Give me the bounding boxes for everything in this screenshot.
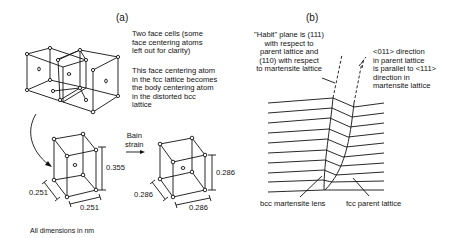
fcc-width-dim: 0.251 xyxy=(80,203,99,212)
habit-leader-line xyxy=(322,78,335,83)
curved-arrow xyxy=(31,114,49,165)
direction-dashed-line xyxy=(354,62,362,103)
bain-arrow-head xyxy=(140,150,145,154)
direction-arrow-line xyxy=(359,57,366,66)
bcc-depth-dim: 0.286 xyxy=(134,190,153,199)
direction-note: <011> direction in parent lattice is par… xyxy=(373,48,436,91)
martensite-lens-label: bcc martensite lens xyxy=(260,200,325,209)
fcc-parent-lattice-lines xyxy=(268,98,384,192)
curved-arrow-head xyxy=(45,161,52,167)
lens-leader-line xyxy=(300,176,322,197)
bcc-height-dim: 0.286 xyxy=(216,168,235,177)
two-face-cells-note: Two face cells (some face centering atom… xyxy=(132,30,203,56)
units-note: All dimensions in nm xyxy=(30,227,94,236)
habit-plane-dashed-line xyxy=(333,55,342,98)
fcc-depth-dim: 0.251 xyxy=(29,188,48,197)
parent-lattice-label: fcc parent lattice xyxy=(346,200,401,209)
bcc-unit-cell xyxy=(158,136,207,199)
parent-leader-line xyxy=(353,178,369,196)
fcc-height-dim: 0.355 xyxy=(106,163,125,172)
direction-arrow-line-2 xyxy=(362,58,364,68)
face-centering-note: This face centering atom in the fcc latt… xyxy=(132,67,217,110)
fcc-two-face-cells xyxy=(27,48,118,112)
bain-strain-label: Bain strain xyxy=(125,132,144,149)
panel-b-title: (b) xyxy=(306,12,318,23)
bcc-martensite-lens xyxy=(323,98,354,190)
habit-plane-note: "Habit" plane is (111) with respect to p… xyxy=(254,31,324,74)
bcc-width-dim: 0.286 xyxy=(189,203,208,212)
fcc-unit-cell xyxy=(52,132,98,199)
panel-a-title: (a) xyxy=(116,12,128,23)
